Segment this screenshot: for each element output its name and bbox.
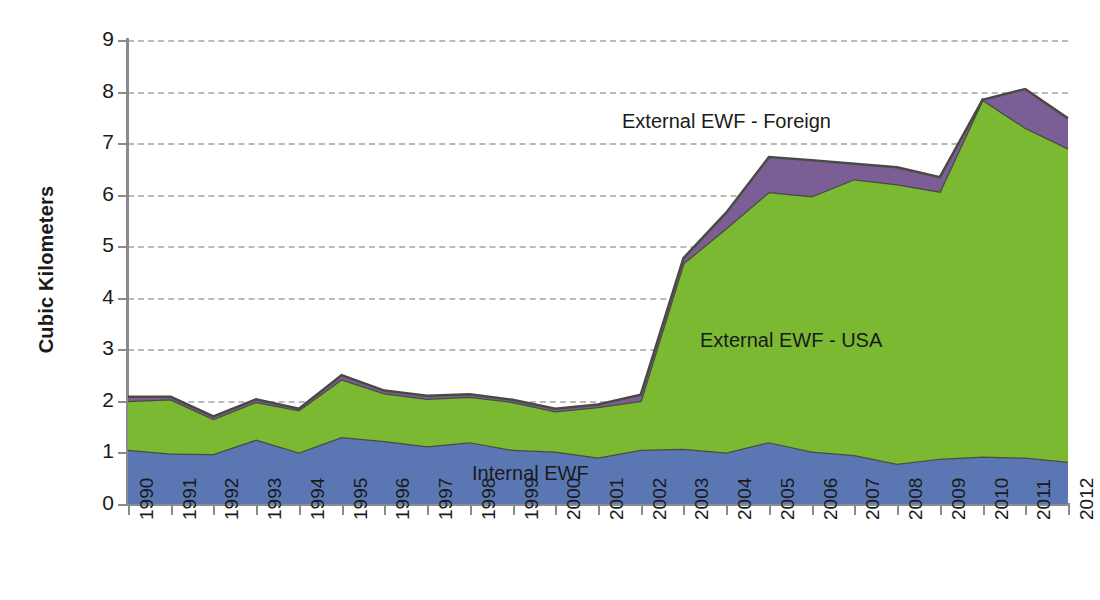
- x-axis-tick: [1025, 504, 1027, 515]
- x-axis-tick-label: 2005: [777, 478, 799, 520]
- x-axis-tick: [470, 504, 472, 515]
- x-axis-tick: [1068, 504, 1070, 515]
- x-axis-tick-label: 1992: [221, 478, 243, 520]
- y-axis-tick-label: 3: [80, 336, 114, 360]
- x-axis-tick-label: 1994: [307, 478, 329, 520]
- x-axis-tick: [342, 504, 344, 515]
- x-axis-tick-label: 1996: [392, 478, 414, 520]
- x-axis-tick-label: 1993: [264, 478, 286, 520]
- y-axis-title: Cubic Kilometers: [35, 120, 58, 420]
- x-axis-tick-label: 2006: [820, 478, 842, 520]
- series-label-external-usa: External EWF - USA: [700, 329, 882, 352]
- y-axis-tick-label: 0: [80, 491, 114, 515]
- x-axis-tick-label: 1997: [435, 478, 457, 520]
- x-axis-tick: [384, 504, 386, 515]
- y-axis-tick-label: 1: [80, 439, 114, 463]
- x-axis-tick-label: 2004: [734, 478, 756, 520]
- x-axis-tick-label: 2002: [649, 478, 671, 520]
- y-axis-tick-label: 9: [80, 27, 114, 51]
- x-axis-tick-label: 2010: [991, 478, 1013, 520]
- x-axis-tick: [983, 504, 985, 515]
- x-axis-tick: [128, 504, 130, 515]
- x-axis-tick-label: 2009: [948, 478, 970, 520]
- x-axis-tick: [641, 504, 643, 515]
- x-axis-tick-label: 2007: [862, 478, 884, 520]
- x-axis-tick: [940, 504, 942, 515]
- y-axis-tick-label: 4: [80, 285, 114, 309]
- x-axis-tick: [299, 504, 301, 515]
- x-axis-tick: [726, 504, 728, 515]
- x-axis-tick: [683, 504, 685, 515]
- x-axis-tick: [427, 504, 429, 515]
- chart-root: Cubic Kilometers 0123456789 199019911992…: [0, 0, 1100, 600]
- y-axis-tick-label: 5: [80, 233, 114, 257]
- x-axis-tick: [598, 504, 600, 515]
- x-axis-tick: [256, 504, 258, 515]
- stacked-area-series: [128, 40, 1068, 504]
- y-axis-tick-label: 6: [80, 182, 114, 206]
- x-axis-tick: [812, 504, 814, 515]
- x-axis-tick: [555, 504, 557, 515]
- x-axis-tick: [513, 504, 515, 515]
- x-axis-tick-label: 2003: [691, 478, 713, 520]
- x-axis-tick: [171, 504, 173, 515]
- y-axis-tick-label: 8: [80, 79, 114, 103]
- x-axis-tick: [854, 504, 856, 515]
- x-axis-tick-label: 2001: [606, 478, 628, 520]
- x-axis-tick: [769, 504, 771, 515]
- plot-area: 0123456789 19901991199219931994199519961…: [128, 40, 1068, 504]
- series-label-external-foreign: External EWF - Foreign: [622, 110, 831, 133]
- x-axis-tick-label: 2011: [1033, 479, 1055, 520]
- area-series-external-ewf-usa: [128, 100, 1068, 464]
- x-axis-tick-label: 2008: [905, 478, 927, 520]
- x-axis-tick-label: 1995: [350, 478, 372, 520]
- series-label-internal: Internal EWF: [472, 462, 589, 485]
- x-axis-tick: [897, 504, 899, 515]
- y-axis-tick-label: 7: [80, 130, 114, 154]
- x-axis-tick-label: 1990: [136, 478, 158, 520]
- x-axis-tick-label: 1991: [179, 478, 201, 520]
- x-axis-tick: [213, 504, 215, 515]
- y-axis-tick-label: 2: [80, 388, 114, 412]
- x-axis-tick-label: 2012: [1076, 478, 1098, 520]
